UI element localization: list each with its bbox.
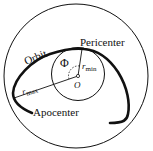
label-pericenter: Pericenter: [80, 36, 125, 48]
label-angle-phi: Φ: [60, 56, 69, 70]
label-apocenter: Apocenter: [33, 106, 79, 118]
label-r-max: rmax: [21, 82, 40, 98]
center-point: [76, 74, 79, 77]
orbit-diagram: Orbit Pericenter Φ rmin O rmax Apocenter: [0, 0, 153, 151]
label-r-min: rmin: [82, 61, 97, 73]
label-center: O: [74, 80, 81, 90]
label-orbit: Orbit: [22, 47, 48, 67]
